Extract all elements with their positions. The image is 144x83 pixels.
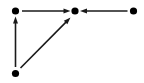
- top-left-node: [12, 7, 19, 14]
- edge-bottom-left-to-top-left: [13, 17, 18, 68]
- edge-line: [21, 22, 67, 68]
- arrowhead-icon: [13, 17, 18, 24]
- diagram-canvas: [0, 0, 144, 83]
- edge-bottom-left-to-center: [21, 18, 71, 69]
- arrowhead-icon: [64, 9, 71, 14]
- top-center-node: [71, 7, 78, 14]
- arrowhead-icon: [80, 9, 87, 14]
- edge-top-left-to-center: [22, 9, 71, 14]
- directed-graph-figure: [0, 0, 144, 83]
- edge-top-right-to-center: [80, 9, 128, 14]
- bottom-left-node: [12, 70, 19, 77]
- top-right-node: [130, 7, 137, 14]
